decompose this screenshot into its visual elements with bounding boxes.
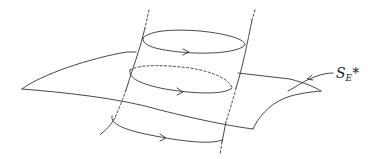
cylinder-sides — [99, 10, 255, 155]
surface-sheet — [22, 52, 321, 129]
cylinder-surface-diagram — [0, 0, 371, 159]
label-pointer — [288, 73, 333, 91]
top-loop — [143, 30, 245, 55]
surface-label: SE* — [336, 66, 359, 83]
bottom-loop — [112, 116, 222, 142]
middle-loop — [130, 66, 232, 95]
